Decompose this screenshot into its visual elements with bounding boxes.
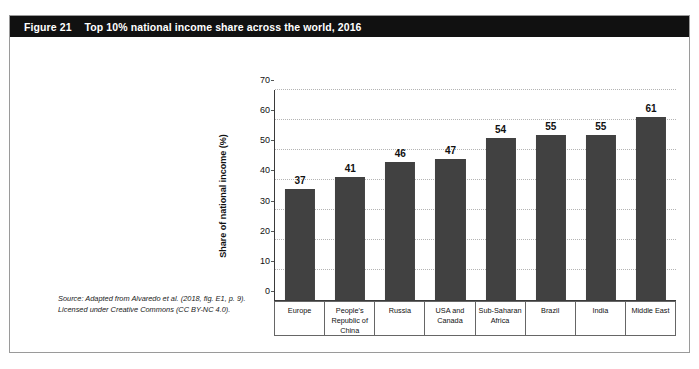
category-label: People's Republic of China [331,306,368,337]
bar-cell[interactable]: 47 [425,90,475,300]
category-label: Europe [288,306,312,316]
category-label: Brazil [541,306,559,316]
y-tick-label: 30 [240,196,270,206]
category-cell: Middle East [626,302,676,335]
chart-area: Share of national income (%) 01020304050… [224,71,684,336]
category-label: Russia [389,306,411,316]
figure-title: Top 10% national income share across the… [85,21,362,33]
figure-header: Figure 21 Top 10% national income share … [10,16,689,37]
bar-cell[interactable]: 46 [375,90,425,300]
bar[interactable] [435,159,465,300]
category-label-table: EuropePeople's Republic of ChinaRussiaUS… [274,301,676,336]
y-tick-label: 50 [240,135,270,145]
bar-value-label: 55 [545,121,556,132]
category-cell: People's Republic of China [325,302,375,335]
y-tick-label: 0 [240,286,270,296]
bar-cell[interactable]: 61 [626,90,676,300]
bar-cell[interactable]: 41 [325,90,375,300]
bar[interactable] [636,117,666,300]
bar[interactable] [285,189,315,300]
source-line-1: Source: Adapted from Alvaredo et al. (20… [58,294,248,305]
bar-value-label: 55 [595,121,606,132]
bar[interactable] [486,138,516,300]
bar[interactable] [536,135,566,300]
y-tick-label: 70 [240,75,270,85]
bar[interactable] [385,162,415,300]
y-axis-ticks: 010203040506070 [240,90,270,301]
bar-cell[interactable]: 37 [275,90,325,300]
y-tick-label: 20 [240,226,270,236]
category-label: Middle East [631,306,669,316]
category-label: USA and Canada [436,306,465,326]
y-tick-label: 60 [240,105,270,115]
category-cell: Sub-Saharan Africa [476,302,526,335]
source-note: Source: Adapted from Alvaredo et al. (20… [58,294,248,315]
bar-value-label: 41 [345,163,356,174]
source-line-2: Licensed under Creative Commons (CC BY-N… [58,305,248,316]
category-cell: USA and Canada [425,302,475,335]
y-axis-title: Share of national income (%) [218,126,228,266]
bar-value-label: 46 [395,148,406,159]
category-cell: Russia [375,302,425,335]
bar-cell[interactable]: 55 [576,90,626,300]
category-label: India [592,306,608,316]
plot-area: 3741464754555561 [274,90,676,301]
category-cell: India [576,302,626,335]
bar-series: 3741464754555561 [275,90,676,300]
bar-value-label: 47 [445,145,456,156]
figure-frame: Figure 21 Top 10% national income share … [9,15,690,353]
bar-value-label: 61 [645,103,656,114]
bar-cell[interactable]: 54 [476,90,526,300]
bar-cell[interactable]: 55 [526,90,576,300]
category-cell: Brazil [526,302,576,335]
bar-value-label: 54 [495,124,506,135]
figure-label: Figure 21 [24,21,72,33]
bar[interactable] [335,177,365,300]
y-tick-label: 40 [240,165,270,175]
category-cell: Europe [275,302,325,335]
bar[interactable] [586,135,616,300]
bar-value-label: 37 [295,175,306,186]
category-label: Sub-Saharan Africa [479,306,522,326]
y-tick-label: 10 [240,256,270,266]
plot-wrapper: 010203040506070 3741464754555561 [274,90,676,301]
